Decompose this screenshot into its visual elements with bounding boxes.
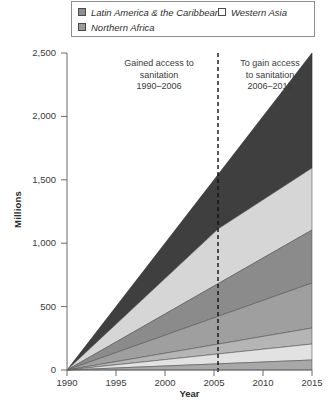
y-axis-ticks (61, 53, 67, 370)
x-tick-label: 1995 (96, 378, 136, 388)
y-tick-label: 0 (12, 365, 56, 375)
x-axis-ticks (67, 370, 312, 376)
annotation-line-2: sanitation (100, 70, 218, 82)
y-tick-label: 500 (12, 302, 56, 312)
x-tick-label: 2010 (243, 378, 283, 388)
annotation-line-3: 1990–2006 (100, 81, 218, 93)
annotation-to-gain-access: To gain access to sanitation 2006–2015 (224, 58, 316, 93)
x-axis-title: Year (67, 388, 312, 399)
x-tick-label: 2005 (194, 378, 234, 388)
x-tick-label: 2000 (145, 378, 185, 388)
y-tick-label: 2,500 (12, 48, 56, 58)
annotation-gained-access: Gained access to sanitation 1990–2006 (100, 58, 218, 93)
y-axis-title: Millions (12, 180, 23, 240)
x-tick-label: 1990 (47, 378, 87, 388)
chart-plot-area: 0 500 1,000 1,500 2,000 2,500 1990 1995 … (0, 0, 328, 403)
y-tick-label: 1,000 (12, 238, 56, 248)
annotation-line-1: Gained access to (100, 58, 218, 70)
annotation-line-2: to sanitation (224, 70, 316, 82)
x-tick-label: 2015 (292, 378, 328, 388)
area-bands (67, 53, 312, 370)
annotation-line-1: To gain access (224, 58, 316, 70)
annotation-line-3: 2006–2015 (224, 81, 316, 93)
y-tick-label: 2,000 (12, 111, 56, 121)
